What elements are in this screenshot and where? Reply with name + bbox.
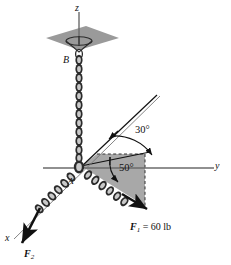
- angle-30-label: 30°: [135, 125, 150, 136]
- diagram-svg: [0, 0, 231, 265]
- f2-arrow: [22, 208, 40, 243]
- f1-label: F1 = 60 lb: [130, 222, 171, 234]
- point-a-label: A: [68, 177, 74, 186]
- point-b-label: B: [63, 55, 69, 65]
- f1-symbol: F: [130, 221, 137, 232]
- junction-a: [74, 161, 84, 174]
- f2-subscript: 2: [31, 253, 35, 261]
- ceiling-plate: [46, 26, 119, 50]
- f1-value: = 60 lb: [143, 221, 171, 232]
- figure-canvas: z y x B A 30° 50° F1 = 60 lb F2: [0, 0, 231, 265]
- f2-label: F2: [24, 249, 34, 261]
- y-axis-label: y: [215, 161, 219, 171]
- z-axis-label: z: [75, 3, 79, 13]
- x-axis-label: x: [5, 233, 9, 243]
- f2-symbol: F: [24, 248, 31, 259]
- chain-vertical-ba: [75, 55, 82, 163]
- angle-50-label: 50°: [119, 163, 134, 174]
- f1-subscript: 1: [137, 226, 141, 234]
